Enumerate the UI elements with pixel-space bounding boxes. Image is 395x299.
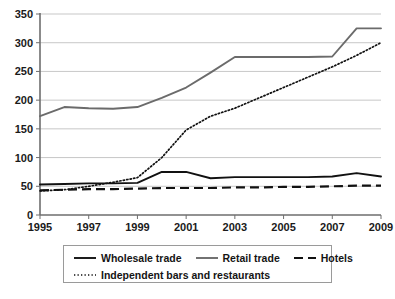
legend-label-wholesale-trade: Wholesale trade (101, 252, 182, 264)
x-axis-tick-label: 2001 (174, 221, 198, 233)
chart-legend: Wholesale trade Retail trade Hotels Inde… (63, 245, 332, 283)
series-line-independent-bars-and-restaurants (40, 43, 381, 191)
chart-plot-area: 0501001502002503003501995199719992001200… (0, 0, 395, 240)
y-axis-tick-label: 50 (21, 180, 33, 192)
solid-line-swatch-icon (73, 253, 97, 263)
legend-label-independent-bars-and-restaurants: Independent bars and restaurants (101, 269, 270, 281)
y-axis-tick-label: 0 (27, 209, 33, 221)
legend-row-2: Independent bars and restaurants (64, 266, 331, 283)
legend-row-1: Wholesale trade Retail trade Hotels (64, 249, 331, 266)
x-axis-tick-label: 2005 (271, 221, 295, 233)
series-line-wholesale-trade (40, 172, 381, 185)
x-axis-tick-label: 1999 (125, 221, 149, 233)
legend-entry-retail-trade[interactable]: Retail trade (195, 252, 280, 264)
y-axis-tick-label: 100 (15, 152, 33, 164)
x-axis-tick-label: 2003 (223, 221, 247, 233)
x-axis-tick-label: 2007 (320, 221, 344, 233)
dotted-line-swatch-icon (73, 270, 97, 280)
dashed-line-swatch-icon (293, 253, 317, 263)
y-axis-tick-label: 150 (15, 123, 33, 135)
series-line-retail-trade (40, 28, 381, 116)
y-axis-tick-label: 250 (15, 65, 33, 77)
legend-label-hotels: Hotels (321, 252, 353, 264)
y-axis-tick-label: 300 (15, 37, 33, 49)
legend-label-retail-trade: Retail trade (223, 252, 280, 264)
x-axis-tick-label: 2009 (369, 221, 393, 233)
solid-line-swatch-icon (195, 253, 219, 263)
legend-entry-independent-bars-and-restaurants[interactable]: Independent bars and restaurants (73, 269, 270, 281)
y-axis-tick-label: 200 (15, 94, 33, 106)
x-axis-tick-label: 1997 (76, 221, 100, 233)
legend-entry-hotels[interactable]: Hotels (293, 252, 353, 264)
legend-entry-wholesale-trade[interactable]: Wholesale trade (73, 252, 182, 264)
y-axis-tick-label: 350 (15, 8, 33, 20)
x-axis-tick-label: 1995 (28, 221, 52, 233)
